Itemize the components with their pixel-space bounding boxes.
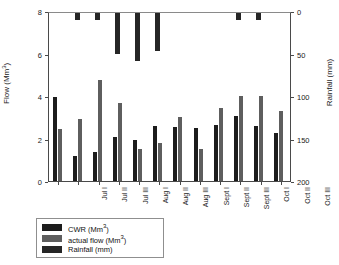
x-axis-tick-label: Sept I bbox=[223, 187, 230, 227]
x-axis-tick-label: Aug III bbox=[202, 187, 209, 227]
y-axis-left-tick-label: 2 bbox=[30, 136, 42, 145]
y-axis-right-title: Rainfall (mm) bbox=[325, 48, 334, 118]
bar-group bbox=[149, 13, 169, 181]
x-axis-tick bbox=[58, 182, 59, 185]
y-axis-right-tick bbox=[291, 55, 294, 56]
legend-label: Rainfall (mm) bbox=[68, 245, 113, 254]
bar-group bbox=[169, 13, 189, 181]
bar-actual-flow bbox=[178, 117, 182, 181]
bar-rainfall bbox=[135, 13, 140, 61]
legend-label: actual flow (Mm3) bbox=[68, 233, 126, 245]
legend-swatch bbox=[42, 224, 62, 231]
bar-cwr bbox=[214, 125, 218, 181]
legend-item: actual flow (Mm3) bbox=[42, 233, 158, 244]
x-axis-tick-label: Aug II bbox=[182, 187, 189, 227]
y-axis-right-tick bbox=[291, 12, 294, 13]
x-axis-tick bbox=[220, 182, 221, 185]
x-axis-tick-label: Oct I bbox=[283, 187, 290, 227]
legend-swatch bbox=[42, 235, 62, 242]
x-axis-tick bbox=[159, 182, 160, 185]
legend-label: CWR (Mm3) bbox=[68, 222, 109, 234]
bar-actual-flow bbox=[58, 129, 62, 181]
bar-cwr bbox=[194, 128, 198, 181]
bar-actual-flow bbox=[98, 80, 102, 181]
bar-rainfall bbox=[256, 13, 261, 20]
bar-actual-flow bbox=[259, 96, 263, 181]
y-axis-right-tick-label: 100 bbox=[297, 93, 315, 102]
bar-group bbox=[49, 13, 69, 181]
x-axis-tick bbox=[99, 182, 100, 185]
x-axis-tick bbox=[281, 182, 282, 185]
bar-group bbox=[129, 13, 149, 181]
bar-group bbox=[270, 13, 290, 181]
bar-actual-flow bbox=[199, 149, 203, 181]
plot-area bbox=[48, 12, 291, 182]
x-axis-tick bbox=[200, 182, 201, 185]
bar-cwr bbox=[53, 97, 57, 181]
bar-actual-flow bbox=[138, 149, 142, 181]
y-axis-left-title: Flow (Mm3) bbox=[1, 53, 12, 113]
bar-cwr bbox=[73, 156, 77, 182]
y-axis-left-title-tail: ) bbox=[2, 63, 11, 66]
y-axis-left-tick-label: 4 bbox=[30, 93, 42, 102]
bar-actual-flow bbox=[279, 111, 283, 181]
bar-cwr bbox=[234, 116, 238, 181]
bar-cwr bbox=[113, 137, 117, 181]
x-axis-tick-label: Oct II bbox=[304, 187, 311, 227]
y-axis-right-tick-label: 50 bbox=[297, 51, 315, 60]
y-axis-right-tick-label: 200 bbox=[297, 178, 315, 187]
bar-rainfall bbox=[236, 13, 241, 20]
x-axis-tick bbox=[261, 182, 262, 185]
bar-rainfall bbox=[95, 13, 100, 20]
x-axis-tick bbox=[180, 182, 181, 185]
y-axis-left-tick-label: 0 bbox=[30, 178, 42, 187]
bar-group bbox=[230, 13, 250, 181]
bar-group bbox=[109, 13, 129, 181]
y-axis-right-tick bbox=[291, 97, 294, 98]
y-axis-right-tick bbox=[291, 182, 294, 183]
bar-cwr bbox=[274, 133, 278, 181]
y-axis-left-tick-label: 8 bbox=[30, 8, 42, 17]
bar-actual-flow bbox=[118, 103, 122, 181]
bar-cwr bbox=[153, 126, 157, 181]
bar-group bbox=[250, 13, 270, 181]
bar-rainfall bbox=[155, 13, 160, 51]
bar-group-container bbox=[49, 13, 290, 181]
bar-cwr bbox=[254, 126, 258, 181]
y-axis-right-tick-label: 150 bbox=[297, 136, 315, 145]
legend-item: Rainfall (mm) bbox=[42, 244, 158, 255]
y-axis-left-tick bbox=[45, 97, 48, 98]
bar-actual-flow bbox=[158, 143, 162, 181]
x-axis-tick-label: Sept III bbox=[263, 187, 270, 227]
bar-rainfall bbox=[115, 13, 120, 54]
chart-legend: CWR (Mm3)actual flow (Mm3)Rainfall (mm) bbox=[36, 218, 164, 258]
bar-cwr bbox=[93, 152, 97, 181]
x-axis-tick bbox=[240, 182, 241, 185]
x-axis-tick-label: Sept II bbox=[243, 187, 250, 227]
y-axis-left-title-superscript: 3 bbox=[1, 65, 7, 68]
bar-rainfall bbox=[75, 13, 80, 20]
y-axis-left-tick-label: 6 bbox=[30, 51, 42, 60]
bar-group bbox=[190, 13, 210, 181]
x-axis-tick-label: Oct III bbox=[324, 187, 331, 227]
y-axis-left-tick bbox=[45, 12, 48, 13]
bar-cwr bbox=[173, 127, 177, 181]
bar-group bbox=[69, 13, 89, 181]
legend-swatch bbox=[42, 246, 62, 253]
bar-actual-flow bbox=[239, 96, 243, 181]
x-axis-tick bbox=[139, 182, 140, 185]
y-axis-left-title-text: Flow (Mm bbox=[2, 69, 11, 104]
y-axis-left-tick bbox=[45, 182, 48, 183]
y-axis-right-tick-label: 0 bbox=[297, 8, 315, 17]
x-axis-tick bbox=[119, 182, 120, 185]
x-axis-tick bbox=[78, 182, 79, 185]
legend-item: CWR (Mm3) bbox=[42, 222, 158, 233]
bar-group bbox=[210, 13, 230, 181]
bar-actual-flow bbox=[78, 119, 82, 181]
y-axis-left-tick bbox=[45, 55, 48, 56]
bar-actual-flow bbox=[219, 108, 223, 181]
chart-figure: Flow (Mm3) Rainfall (mm) 024680501001502… bbox=[0, 0, 339, 265]
y-axis-left-tick bbox=[45, 140, 48, 141]
y-axis-right-tick bbox=[291, 140, 294, 141]
bar-group bbox=[89, 13, 109, 181]
